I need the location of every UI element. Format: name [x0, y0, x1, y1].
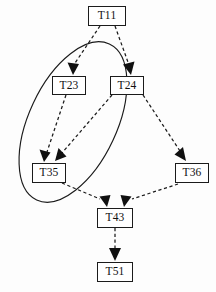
- node-t24[interactable]: T24: [110, 76, 144, 95]
- edge-t24-t36: [143, 95, 186, 161]
- edge-t43-t51: [109, 228, 121, 261]
- node-t51[interactable]: T51: [97, 262, 133, 282]
- graph-edges-layer: [0, 0, 216, 292]
- node-label-t51: T51: [105, 266, 124, 278]
- node-label-t11: T11: [98, 10, 117, 22]
- arrow-head-t24-t36: [175, 147, 187, 161]
- edge-t36-t43: [121, 184, 179, 207]
- node-t43[interactable]: T43: [97, 208, 133, 228]
- node-label-t23: T23: [59, 80, 78, 92]
- arrow-head-t35-t43: [100, 195, 111, 207]
- diagram-canvas: T11 T23 T24 T35 T36 T43 T51: [0, 0, 216, 292]
- node-label-t24: T24: [117, 80, 136, 92]
- edge-t24-t35: [55, 95, 112, 161]
- group-ellipse-cluster-1: [0, 25, 149, 218]
- edge-t11-t23: [68, 26, 101, 75]
- node-t35[interactable]: T35: [32, 163, 66, 183]
- arrow-head-t36-t43: [121, 195, 132, 207]
- arrow-head-t11-t23: [68, 63, 80, 76]
- node-label-t35: T35: [39, 167, 58, 179]
- arrow-head-t43-t51: [109, 248, 121, 261]
- node-label-t36: T36: [182, 167, 201, 179]
- node-label-t43: T43: [105, 212, 124, 224]
- node-t11[interactable]: T11: [88, 6, 126, 26]
- node-t23[interactable]: T23: [52, 76, 86, 95]
- node-t36[interactable]: T36: [175, 163, 209, 183]
- arrow-head-t23-t35: [40, 150, 51, 163]
